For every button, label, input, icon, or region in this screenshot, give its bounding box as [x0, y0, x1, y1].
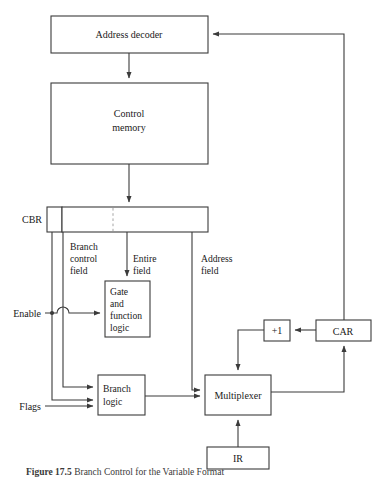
figure-page: Address decoder Control memory CBR Branc… [0, 0, 386, 480]
car-label: CAR [333, 326, 354, 337]
address-decoder-label: Address decoder [96, 29, 164, 40]
cbr-label-cell [47, 207, 62, 232]
enable-label: Enable [13, 308, 41, 319]
gate-logic-label-line1: Gate [110, 286, 128, 297]
branch-control-field-label-line2: control [70, 253, 98, 264]
block-diagram: Address decoder Control memory CBR Branc… [0, 0, 386, 480]
control-memory-label-line1: Control [114, 108, 145, 119]
branch-logic-box [98, 375, 145, 415]
line-incrementer-to-mux [238, 330, 264, 370]
entire-field-label-line1: Entire [133, 253, 156, 264]
flags-label: Flags [19, 401, 41, 412]
line-address-field-to-mux [192, 232, 200, 390]
branch-logic-label-line1: Branch [103, 383, 131, 394]
ir-label: IR [233, 453, 243, 464]
figure-caption: Figure 17.5 Branch Control for the Varia… [26, 466, 376, 478]
figure-caption-text: Branch Control for the Variable Format [74, 467, 224, 477]
enable-junction-dot [50, 311, 54, 315]
address-field-label-line1: Address [201, 253, 233, 264]
gate-logic-label-line4: logic [110, 322, 129, 333]
entire-field-label-line2: field [133, 265, 151, 276]
feedback-car-to-decoder [213, 34, 344, 320]
cbr-label: CBR [22, 214, 42, 225]
gate-logic-label-line3: function [110, 310, 142, 321]
branch-control-field-label-line1: Branch [70, 241, 98, 252]
branch-control-field-label-line3: field [70, 265, 88, 276]
line-mux-to-car [271, 346, 344, 392]
control-memory-label-line2: memory [112, 122, 145, 133]
branch-logic-label-line2: logic [103, 396, 122, 407]
cbr-register-box [62, 207, 208, 232]
figure-caption-number: Figure 17.5 [26, 467, 72, 477]
multiplexer-label: Multiplexer [214, 390, 262, 401]
incrementer-label: +1 [272, 325, 283, 336]
address-field-label-line2: field [201, 265, 219, 276]
gate-logic-label-line2: and [110, 298, 124, 309]
